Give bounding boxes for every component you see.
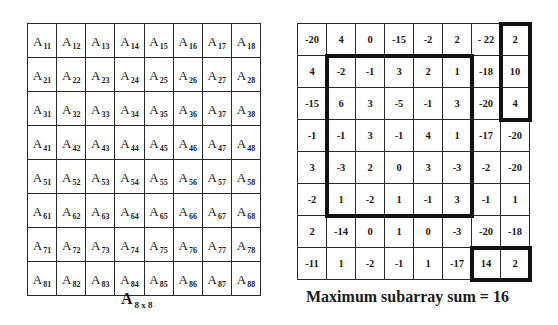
- cell-subscript: 35: [160, 110, 168, 119]
- matrix-cell: A87: [202, 262, 231, 296]
- cell-subscript: 38: [247, 110, 255, 119]
- cell-symbol: A: [33, 204, 42, 219]
- cell-symbol: A: [149, 68, 158, 83]
- matrix-value-cell: 0: [356, 216, 385, 248]
- matrix-cell: A14: [115, 24, 144, 58]
- matrix-cell: A34: [115, 92, 144, 126]
- cell-symbol: A: [62, 34, 71, 49]
- cell-subscript: 42: [72, 144, 80, 153]
- cell-subscript: 44: [131, 144, 139, 153]
- matrix-row: -2040-15-22- 222: [298, 24, 530, 56]
- cell-symbol: A: [237, 204, 246, 219]
- matrix-value-cell: 2: [356, 152, 385, 184]
- matrix-cell: A33: [86, 92, 115, 126]
- cell-symbol: A: [237, 102, 246, 117]
- matrix-cell: A37: [202, 92, 231, 126]
- matrix-cell: A77: [202, 228, 231, 262]
- cell-subscript: 17: [218, 42, 226, 51]
- matrix-cell: A62: [57, 194, 86, 228]
- cell-subscript: 25: [160, 76, 168, 85]
- matrix-value-cell: -2: [298, 184, 327, 216]
- cell-symbol: A: [91, 204, 100, 219]
- cell-subscript: 28: [247, 76, 255, 85]
- cell-symbol: A: [91, 34, 100, 49]
- cell-subscript: 45: [160, 144, 168, 153]
- cell-subscript: 75: [160, 246, 168, 255]
- cell-symbol: A: [178, 68, 187, 83]
- cell-subscript: 18: [247, 42, 255, 51]
- cell-symbol: A: [178, 136, 187, 151]
- cell-subscript: 68: [247, 212, 255, 221]
- cell-subscript: 67: [218, 212, 226, 221]
- matrix-row: 3-3203-3-2-20: [298, 152, 530, 184]
- cell-subscript: 72: [72, 246, 80, 255]
- cell-symbol: A: [91, 136, 100, 151]
- matrix-cell: A35: [144, 92, 173, 126]
- matrix-cell: A16: [173, 24, 202, 58]
- matrix-value-cell: -15: [298, 88, 327, 120]
- cell-subscript: 62: [72, 212, 80, 221]
- cell-symbol: A: [120, 238, 129, 253]
- matrix-value-cell: -2: [327, 56, 356, 88]
- cell-symbol: A: [208, 204, 217, 219]
- cell-subscript: 74: [131, 246, 139, 255]
- cell-symbol: A: [178, 204, 187, 219]
- cell-subscript: 11: [43, 42, 51, 51]
- matrix-cell: A36: [173, 92, 202, 126]
- cell-symbol: A: [149, 136, 158, 151]
- cell-subscript: 56: [189, 178, 197, 187]
- matrix-value-cell: 3: [443, 88, 472, 120]
- cell-symbol: A: [149, 204, 158, 219]
- matrix-cell: A52: [57, 160, 86, 194]
- cell-subscript: 15: [160, 42, 168, 51]
- cell-subscript: 37: [218, 110, 226, 119]
- matrix-cell: A82: [57, 262, 86, 296]
- matrix-cell: A48: [231, 126, 260, 160]
- cell-symbol: A: [62, 102, 71, 117]
- matrix-value-cell: 4: [298, 56, 327, 88]
- matrix-cell: A32: [57, 92, 86, 126]
- matrix-cell: A27: [202, 58, 231, 92]
- cell-symbol: A: [91, 238, 100, 253]
- matrix-row: A21A22A23A24A25A26A27A28: [28, 58, 261, 92]
- cell-subscript: 32: [72, 110, 80, 119]
- cell-subscript: 31: [43, 110, 51, 119]
- matrix-row: A41A42A43A44A45A46A47A48: [28, 126, 261, 160]
- matrix-cell: A22: [57, 58, 86, 92]
- cell-symbol: A: [33, 136, 42, 151]
- matrix-value-cell: -20: [472, 216, 501, 248]
- matrix-value-cell: -20: [298, 24, 327, 56]
- matrix-cell: A67: [202, 194, 231, 228]
- matrix-cell: A31: [28, 92, 57, 126]
- cell-subscript: 33: [102, 110, 110, 119]
- matrix-row: A31A32A33A34A35A36A37A38: [28, 92, 261, 126]
- cell-subscript: 22: [72, 76, 80, 85]
- matrix-cell: A66: [173, 194, 202, 228]
- cell-symbol: A: [178, 272, 187, 287]
- cell-symbol: A: [208, 170, 217, 185]
- cell-symbol: A: [149, 170, 158, 185]
- matrix-cell: A46: [173, 126, 202, 160]
- matrix-value-cell: 4: [414, 120, 443, 152]
- matrix-cell: A78: [231, 228, 260, 262]
- cell-subscript: 54: [131, 178, 139, 187]
- matrix-value-cell: -20: [501, 152, 530, 184]
- matrix-cell: A21: [28, 58, 57, 92]
- cell-subscript: 24: [131, 76, 139, 85]
- cell-subscript: 13: [102, 42, 110, 51]
- matrix-value-cell: -3: [443, 216, 472, 248]
- cell-symbol: A: [62, 272, 71, 287]
- cell-subscript: 36: [189, 110, 197, 119]
- cell-symbol: A: [91, 68, 100, 83]
- cell-symbol: A: [91, 102, 100, 117]
- matrix-cell: A17: [202, 24, 231, 58]
- cell-symbol: A: [208, 34, 217, 49]
- matrix-row: -111-2-11-17142: [298, 248, 530, 280]
- matrix-cell: A55: [144, 160, 173, 194]
- cell-symbol: A: [237, 170, 246, 185]
- cell-symbol: A: [62, 170, 71, 185]
- cell-symbol: A: [33, 238, 42, 253]
- matrix-cell: A74: [115, 228, 144, 262]
- cell-symbol: A: [149, 34, 158, 49]
- cell-subscript: 12: [72, 42, 80, 51]
